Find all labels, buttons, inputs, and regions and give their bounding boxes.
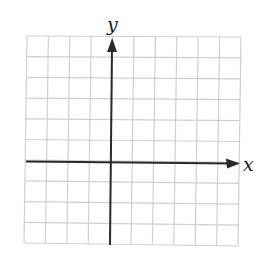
y-axis xyxy=(110,46,112,245)
grid-line-horizontal xyxy=(27,36,241,37)
grid-line-horizontal xyxy=(26,98,240,100)
x-axis-arrow-icon xyxy=(226,159,240,169)
grid-line-horizontal xyxy=(27,57,241,58)
coordinate-plane: x y xyxy=(0,0,259,262)
grid-lines xyxy=(24,36,241,246)
grid-line-horizontal xyxy=(26,77,240,78)
y-axis-arrow-icon xyxy=(107,38,117,52)
y-axis-label: y xyxy=(106,13,118,35)
x-axis-label: x xyxy=(243,153,254,175)
